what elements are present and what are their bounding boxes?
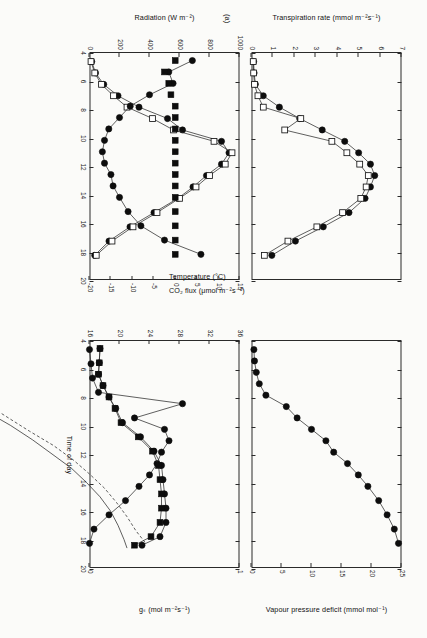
marker-filled-circle: [391, 526, 397, 532]
series-line: [253, 62, 368, 256]
marker-filled-circle: [179, 401, 185, 407]
marker-open-square: [110, 93, 116, 99]
marker-open-square: [328, 138, 334, 144]
x-tick: [251, 281, 255, 282]
panel-label-a: (a): [222, 14, 231, 23]
y-tick-label: 20: [116, 330, 123, 337]
y-tick-label: -20: [86, 283, 93, 292]
figure-frame: 01234567Transpiration rate (mmol m⁻²s⁻¹)…: [0, 0, 427, 638]
panel-radiation-co2flux: 46810121416182002004006008001000Radiatio…: [89, 52, 239, 280]
plot-area-gs-temperature: 46810121416182001gₛ (mol m⁻²s⁻¹)Time of …: [89, 340, 239, 568]
axis-title-vpd: Vapour pressure deficit (mmol mol⁻¹): [265, 605, 386, 614]
y-tick-label: 15: [338, 570, 345, 577]
y-tick-label: 1000: [236, 36, 243, 50]
y-tick-label: -15: [107, 283, 114, 292]
x-tick-label: 16: [79, 220, 86, 227]
plot-area-radiation-co2flux: 46810121416182002004006008001000Radiatio…: [89, 52, 239, 280]
y-tick-label: 15: [236, 283, 243, 290]
x-tick: [235, 281, 239, 282]
marker-open-square: [93, 252, 99, 258]
marker-filled-circle: [218, 138, 224, 144]
marker-open-square: [222, 161, 228, 167]
plot-area-transpiration-radiation: 01234567Transpiration rate (mmol m⁻²s⁻¹): [251, 52, 401, 280]
marker-filled-circle: [319, 127, 325, 133]
marker-open-square: [365, 173, 371, 179]
y-tick-label: 7: [398, 46, 405, 50]
y-tick-label: 24: [146, 330, 153, 337]
marker-open-square: [229, 150, 235, 156]
marker-open-square: [193, 184, 199, 190]
marker-filled-circle: [341, 138, 347, 144]
y-tick-label: 1: [269, 46, 276, 50]
marker-filled-circle: [87, 361, 93, 367]
panel-gs-temperature: 46810121416182001gₛ (mol m⁻²s⁻¹)Time of …: [89, 340, 239, 568]
marker-filled-circle: [161, 426, 167, 432]
marker-open-square: [363, 184, 369, 190]
y-tick-label: 36: [236, 330, 243, 337]
y-tick-label: 10: [214, 283, 221, 290]
x-tick-label: 10: [79, 423, 86, 430]
marker-open-square: [149, 116, 155, 122]
y-tick-label: 0: [86, 570, 93, 574]
y-tick-label: 5: [193, 283, 200, 287]
axis-title-co2flux: CO₂ flux (μmol m⁻²s⁻¹): [169, 286, 245, 295]
marker-filled-circle: [165, 438, 171, 444]
marker-filled-circle: [375, 498, 381, 504]
marker-open-square: [339, 210, 345, 216]
series-line: [91, 62, 228, 256]
marker-open-square: [98, 81, 104, 87]
marker-open-square: [250, 70, 256, 76]
y-tick-label: 200: [116, 39, 123, 50]
marker-open-square: [130, 224, 136, 230]
marker-open-square: [356, 161, 362, 167]
x-tick-label: 10: [79, 135, 86, 142]
axis-title-gs: gₛ (mol m⁻²s⁻¹): [138, 605, 189, 614]
y-tick-label: 10: [308, 570, 315, 577]
y-tick-label: 0: [86, 46, 93, 50]
y-tick-label: 4: [333, 46, 340, 50]
marker-filled-circle: [250, 346, 256, 352]
marker-filled-circle: [164, 115, 170, 121]
marker-filled-circle: [283, 403, 289, 409]
x-tick-label: 20: [79, 565, 86, 572]
axis-title-radiation: Radiation (W m⁻²): [134, 13, 194, 22]
marker-filled-circle: [256, 381, 262, 387]
y-tick-label: 1: [236, 570, 243, 574]
marker-open-square: [255, 93, 261, 99]
y-tick-label: 2: [291, 46, 298, 50]
panel-transpiration-radiation: 01234567Transpiration rate (mmol m⁻²s⁻¹): [251, 52, 401, 280]
marker-filled-circle: [251, 358, 257, 364]
marker-open-square: [260, 104, 266, 110]
x-tick-label: 12: [79, 451, 86, 458]
x-tick-label: 6: [79, 80, 86, 84]
marker-filled-circle: [89, 375, 95, 381]
y-tick-label: 800: [206, 39, 213, 50]
marker-open-square: [206, 173, 212, 179]
series-line: [253, 350, 398, 544]
data-layer: [251, 53, 401, 281]
marker-open-square: [176, 195, 182, 201]
data-layer: [89, 341, 239, 569]
marker-open-square: [313, 224, 319, 230]
y-tick-label: 5: [278, 570, 285, 574]
marker-filled-circle: [153, 460, 159, 466]
y-tick-label: 28: [176, 330, 183, 337]
marker-open-square: [170, 127, 176, 133]
marker-open-square: [343, 150, 349, 156]
marker-filled-circle: [86, 346, 92, 352]
y-tick-label: 16: [86, 330, 93, 337]
marker-filled-circle: [95, 389, 101, 395]
marker-open-square: [285, 238, 291, 244]
data-layer: [89, 53, 239, 281]
y-tick-label: 3: [312, 46, 319, 50]
x-tick-label: 4: [79, 339, 86, 343]
marker-filled-circle: [355, 472, 361, 478]
scientific-figure: 01234567Transpiration rate (mmol m⁻²s⁻¹)…: [0, 0, 427, 638]
data-layer: [251, 341, 401, 569]
series-line: [89, 350, 182, 544]
marker-open-square: [297, 116, 303, 122]
marker-filled-circle: [135, 483, 141, 489]
marker-filled-circle: [131, 415, 137, 421]
marker-open-square: [154, 210, 160, 216]
y-tick-label: 600: [176, 39, 183, 50]
